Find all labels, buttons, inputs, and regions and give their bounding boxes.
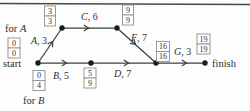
for-b-label: for B: [23, 95, 45, 106]
node-after-b: [88, 60, 93, 65]
time-value: 9: [126, 6, 130, 15]
for-b-prefix: for: [23, 95, 38, 106]
time-value: 16: [159, 42, 167, 51]
edge-b-label: B, 5: [53, 70, 69, 81]
start-node: [35, 60, 40, 65]
edge-a-label: A, 3: [30, 35, 47, 46]
top-rule-divider: [0, 4, 250, 5]
edge-a-duration: , 3: [37, 35, 47, 46]
finish-node: [202, 60, 207, 65]
edge-g-label: G, 3: [174, 46, 191, 57]
time-box-for-a: 0 0: [8, 38, 20, 58]
edge-c-duration: , 6: [88, 11, 98, 22]
time-value: 5: [88, 69, 92, 78]
edge-c-label: C, 6: [81, 11, 98, 22]
edge-d-duration: , 7: [121, 68, 131, 79]
time-value: 19: [200, 35, 208, 44]
time-box-after-d: 16 16: [157, 42, 170, 62]
node-after-c: [114, 25, 119, 30]
time-value: 9: [126, 16, 130, 25]
activity-network-figure: 0 0 3 3 9 9 0 4 5 9 16 16 19: [0, 0, 250, 111]
for-a-letter: A: [19, 23, 27, 34]
time-value: 3: [48, 17, 52, 26]
time-box-after-b: 5 9: [84, 68, 96, 88]
time-value: 9: [88, 79, 92, 88]
time-value: 3: [48, 7, 52, 16]
time-box-after-g: 19 19: [197, 34, 210, 54]
time-box-after-c: 9 9: [123, 5, 134, 25]
time-value: 0: [12, 39, 16, 48]
time-value: 0: [12, 49, 16, 58]
time-box-after-a: 3 3: [45, 6, 56, 26]
time-value: 4: [37, 81, 41, 90]
edge-f-label: F, 7: [130, 32, 147, 43]
finish-label: finish: [212, 58, 237, 69]
for-b-letter: B: [38, 95, 45, 106]
for-a-label: for A: [5, 23, 27, 34]
edge-f-duration: , 7: [137, 32, 147, 43]
diagram-canvas: 0 0 3 3 9 9 0 4 5 9 16 16 19: [0, 0, 250, 111]
time-value: 16: [159, 52, 167, 61]
start-label: start: [3, 58, 21, 69]
edge-b-duration: , 5: [59, 70, 69, 81]
time-value: 0: [37, 71, 41, 80]
node-after-a: [59, 25, 64, 30]
for-a-prefix: for: [5, 23, 20, 34]
edge-d-label: D, 7: [113, 68, 131, 79]
time-value: 19: [200, 45, 208, 54]
time-box-for-b: 0 4: [33, 71, 45, 91]
edge-g-duration: , 3: [181, 46, 191, 57]
edge-g-letter: G: [174, 46, 181, 57]
